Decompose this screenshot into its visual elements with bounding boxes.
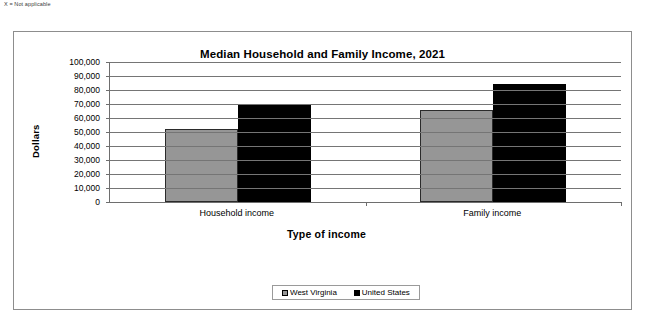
y-tick-mark bbox=[106, 174, 110, 175]
y-tick-mark bbox=[106, 132, 110, 133]
gridline bbox=[110, 188, 621, 189]
x-axis-title: Type of income bbox=[71, 228, 582, 240]
gridline bbox=[110, 174, 621, 175]
y-tick-mark bbox=[106, 90, 110, 91]
y-tick-label: 100,000 bbox=[69, 58, 100, 67]
bar bbox=[493, 84, 566, 202]
y-tick-mark bbox=[106, 118, 110, 119]
gridline bbox=[110, 132, 621, 133]
y-tick-mark bbox=[106, 76, 110, 77]
y-tick-label: 0 bbox=[95, 198, 100, 207]
chart-title: Median Household and Family Income, 2021 bbox=[14, 48, 631, 60]
gridline bbox=[110, 118, 621, 119]
footnote-not-applicable: X = Not applicable bbox=[4, 1, 51, 8]
y-tick-label: 80,000 bbox=[74, 86, 100, 95]
x-axis-category-labels: Household incomeFamily income bbox=[109, 208, 620, 222]
y-tick-mark bbox=[106, 188, 110, 189]
chart-legend: West VirginiaUnited States bbox=[272, 285, 420, 300]
y-tick-mark bbox=[106, 146, 110, 147]
y-tick-label: 20,000 bbox=[74, 170, 100, 179]
legend-item: United States bbox=[354, 288, 410, 297]
gridline bbox=[110, 146, 621, 147]
y-axis-title: Dollars bbox=[30, 124, 41, 158]
legend-swatch-icon bbox=[282, 290, 288, 296]
x-tick-mark bbox=[366, 202, 367, 206]
x-tick-mark bbox=[621, 202, 622, 206]
y-tick-label: 40,000 bbox=[74, 142, 100, 151]
gridline bbox=[110, 104, 621, 105]
chart-frame: Median Household and Family Income, 2021… bbox=[13, 31, 632, 310]
x-category-label: Household income bbox=[199, 208, 274, 218]
y-tick-mark bbox=[106, 62, 110, 63]
y-tick-label: 50,000 bbox=[74, 128, 100, 137]
y-tick-label: 70,000 bbox=[74, 100, 100, 109]
legend-label: United States bbox=[362, 288, 410, 297]
gridline bbox=[110, 62, 621, 63]
legend-label: West Virginia bbox=[290, 288, 337, 297]
gridline bbox=[110, 76, 621, 77]
y-tick-mark bbox=[106, 202, 110, 203]
legend-swatch-icon bbox=[354, 290, 360, 296]
y-tick-label: 60,000 bbox=[74, 114, 100, 123]
plot-area bbox=[109, 62, 621, 203]
gridline bbox=[110, 160, 621, 161]
x-category-label: Family income bbox=[463, 208, 521, 218]
legend-item: West Virginia bbox=[282, 288, 337, 297]
y-axis-tick-labels: 100,00090,00080,00070,00060,00050,00040,… bbox=[52, 62, 104, 202]
plot-wrapper: 100,00090,00080,00070,00060,00050,00040,… bbox=[52, 62, 622, 237]
bar bbox=[165, 129, 238, 203]
y-tick-label: 30,000 bbox=[74, 156, 100, 165]
y-tick-label: 10,000 bbox=[74, 184, 100, 193]
y-tick-mark bbox=[106, 160, 110, 161]
gridline bbox=[110, 90, 621, 91]
y-tick-label: 90,000 bbox=[74, 72, 100, 81]
y-tick-mark bbox=[106, 104, 110, 105]
